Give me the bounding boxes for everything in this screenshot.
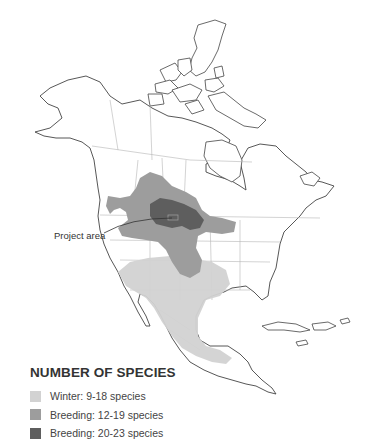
project-area-label: Project area [54, 230, 105, 241]
legend: NUMBER OF SPECIES Winter: 9-18 species B… [30, 365, 176, 443]
legend-label: Breeding: 20-23 species [50, 427, 163, 439]
arctic-islands [148, 20, 266, 128]
swatch-breeding-high [30, 428, 41, 439]
legend-label: Breeding: 12-19 species [50, 409, 163, 421]
legend-title: NUMBER OF SPECIES [30, 365, 176, 380]
legend-item-breeding-high: Breeding: 20-23 species [30, 424, 176, 443]
legend-label: Winter: 9-18 species [50, 390, 146, 402]
legend-item-breeding-low: Breeding: 12-19 species [30, 406, 176, 425]
swatch-winter [30, 391, 41, 402]
swatch-breeding-low [30, 409, 41, 420]
legend-item-winter: Winter: 9-18 species [30, 387, 176, 406]
